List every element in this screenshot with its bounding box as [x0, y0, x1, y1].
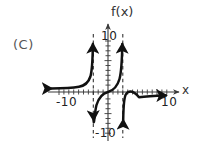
curve-left-branch — [52, 44, 93, 89]
graph-screenshot: (C) f(x) x -10 10 10 -10 — [0, 0, 197, 154]
x-axis-title: x — [182, 84, 189, 96]
y-tick-label-negative-ten: -10 — [95, 127, 116, 139]
x-tick-label-negative-ten: -10 — [56, 96, 77, 108]
y-tick-label-positive-ten: 10 — [101, 30, 117, 42]
y-axis-title: f(x) — [111, 5, 133, 18]
x-tick-label-positive-ten: 10 — [161, 96, 177, 108]
panel-label: (C) — [13, 38, 34, 51]
curve-right-branch — [123, 91, 166, 120]
